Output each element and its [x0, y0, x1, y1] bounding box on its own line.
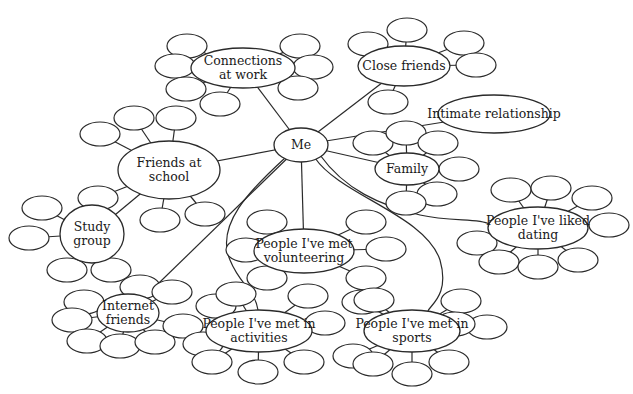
leaf-dating-5 — [479, 250, 519, 274]
leaf-dating-7 — [558, 248, 598, 272]
leaf-study-0 — [22, 196, 62, 220]
leaf-close-2 — [444, 31, 484, 55]
leaf-work-5 — [293, 55, 333, 79]
node-label: Internet — [102, 298, 154, 313]
leaf-close-4 — [368, 90, 408, 114]
leaf-activities-1 — [216, 282, 256, 306]
leaf-circles — [9, 18, 629, 386]
leaf-internet-7 — [152, 280, 192, 304]
leaf-work-2 — [166, 77, 206, 101]
node-dating: People I've likeddating — [486, 207, 590, 249]
leaf-family-2 — [418, 131, 458, 155]
leaf-dating-2 — [572, 186, 612, 210]
leaf-school-5 — [185, 202, 225, 226]
social-network-diagram: MeConnectionsat workClose friendsIntimat… — [0, 0, 633, 394]
node-me: Me — [274, 128, 328, 162]
leaf-dating-0 — [491, 178, 531, 202]
leaf-volunteer-4 — [366, 237, 406, 261]
node-intimate: Intimate relationship — [427, 95, 561, 133]
node-internet: Internetfriends — [97, 294, 159, 332]
node-label: Connections — [204, 53, 283, 68]
leaf-school-4 — [140, 208, 180, 232]
leaf-school-1 — [114, 106, 154, 130]
leaf-work-3 — [200, 92, 240, 116]
node-label: school — [149, 169, 190, 184]
leaf-volunteer-3 — [346, 210, 386, 234]
node-label: volunteering — [263, 250, 345, 265]
node-label: Close friends — [362, 58, 445, 73]
leaf-sports-6 — [441, 289, 481, 313]
node-label: People I've met in — [355, 316, 468, 331]
node-label: Friends at — [137, 155, 202, 170]
node-label: at work — [219, 67, 268, 82]
node-label: People I've liked — [486, 213, 590, 228]
node-label: Intimate relationship — [427, 106, 561, 121]
node-family: Family — [375, 153, 439, 185]
leaf-dating-6 — [518, 255, 558, 279]
leaf-activities-6 — [288, 284, 328, 308]
node-label: activities — [230, 330, 287, 345]
node-label: People I've met in — [202, 316, 315, 331]
node-close: Close friends — [358, 46, 450, 86]
node-label: Me — [291, 137, 311, 152]
leaf-close-3 — [456, 53, 496, 77]
node-school: Friends atschool — [118, 141, 220, 199]
leaf-dating-3 — [589, 213, 629, 237]
leaf-volunteer-5 — [346, 266, 386, 290]
node-label: group — [73, 233, 111, 248]
leaf-activities-5 — [284, 350, 324, 374]
node-label: friends — [106, 312, 150, 327]
leaf-internet-3 — [100, 334, 140, 358]
leaf-study-1 — [9, 226, 49, 250]
leaf-sports-4 — [392, 362, 432, 386]
leaf-activities-3 — [192, 350, 232, 374]
leaf-sports-3 — [353, 352, 393, 376]
leaf-family-5 — [386, 191, 426, 215]
node-study: Studygroup — [60, 205, 124, 263]
leaf-internet-1 — [52, 308, 92, 332]
leaf-work-1 — [155, 54, 195, 78]
node-label: dating — [518, 227, 559, 242]
leaf-school-2 — [156, 106, 196, 130]
leaf-dating-1 — [531, 176, 571, 200]
node-volunteer: People I've metvolunteering — [254, 229, 354, 273]
node-label: Study — [74, 219, 112, 234]
leaf-sports-5 — [429, 350, 469, 374]
node-label: People I've met — [255, 236, 352, 251]
leaf-sports-1 — [354, 288, 394, 312]
node-sports: People I've met insports — [355, 310, 468, 352]
leaf-volunteer-0 — [247, 210, 287, 234]
leaf-close-1 — [387, 18, 427, 42]
leaf-work-4 — [280, 34, 320, 58]
leaf-activities-4 — [238, 360, 278, 384]
leaf-school-0 — [80, 122, 120, 146]
node-label: Family — [386, 161, 429, 176]
node-work: Connectionsat work — [191, 48, 295, 88]
leaf-family-3 — [439, 157, 479, 181]
node-label: sports — [392, 330, 431, 345]
